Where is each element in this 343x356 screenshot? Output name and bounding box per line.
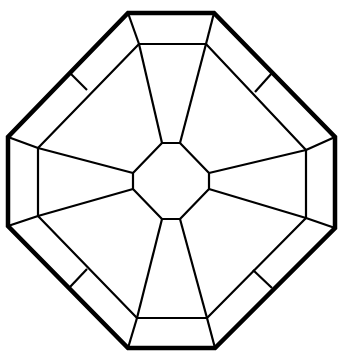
center-octagon xyxy=(133,143,209,219)
corner-connector xyxy=(207,318,215,348)
outer-octagon-outline xyxy=(8,13,335,348)
tick-mark xyxy=(255,73,272,92)
radial-spoke xyxy=(209,150,306,173)
corner-connector xyxy=(8,137,38,148)
tick-mark xyxy=(70,269,87,287)
corner-connector xyxy=(128,13,139,44)
corner-connector xyxy=(128,318,137,348)
tick-mark xyxy=(70,73,87,90)
octagon-diagram xyxy=(0,0,343,356)
outer-octagon xyxy=(8,13,335,348)
corner-connector xyxy=(306,137,335,150)
corner-connector xyxy=(306,218,335,228)
radial-spoke xyxy=(38,148,133,173)
corner-connector xyxy=(8,216,38,226)
tick-mark xyxy=(253,270,272,288)
inner-lines xyxy=(8,13,335,348)
radial-spoke xyxy=(38,189,133,216)
corner-connector xyxy=(206,13,214,44)
radial-spoke xyxy=(180,44,206,143)
radial-spoke xyxy=(209,189,306,218)
radial-spoke xyxy=(137,219,162,318)
radial-spoke xyxy=(180,219,207,318)
radial-spoke xyxy=(139,44,162,143)
